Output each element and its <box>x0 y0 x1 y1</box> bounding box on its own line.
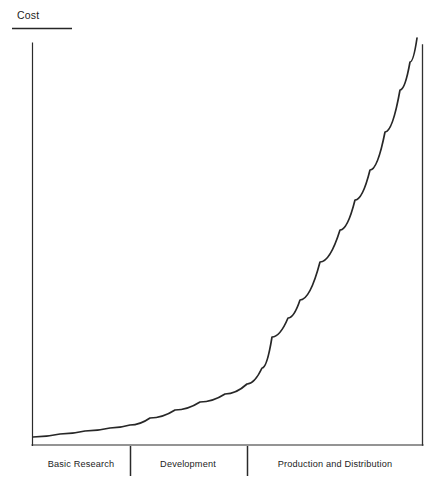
y-axis-title: Cost <box>17 9 39 21</box>
chart-page: Cost Basic Research Development Producti… <box>0 0 435 492</box>
cost-curve-chart: Cost Basic Research Development Producti… <box>0 0 435 492</box>
phase-label-development: Development <box>160 459 216 469</box>
phase-label-production-distribution: Production and Distribution <box>278 459 392 469</box>
cost-curve-line <box>33 38 417 437</box>
phase-label-basic-research: Basic Research <box>48 459 114 469</box>
